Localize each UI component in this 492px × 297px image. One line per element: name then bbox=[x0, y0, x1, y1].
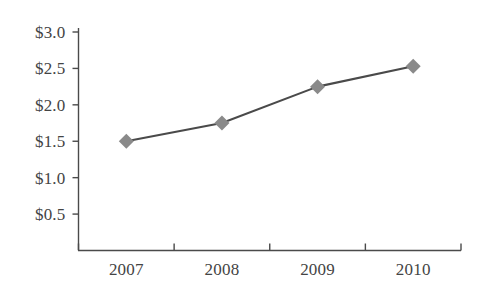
x-axis-tick-label: 2007 bbox=[109, 260, 144, 279]
x-axis-tick-label: 2009 bbox=[300, 260, 335, 279]
y-axis-tick-label: $1.0 bbox=[35, 169, 66, 188]
y-axis-tick-mark-group bbox=[73, 32, 79, 214]
series-line-path bbox=[126, 66, 413, 141]
x-axis-tick-label-group: 2007200820092010 bbox=[109, 260, 431, 279]
x-axis-tick-mark-group bbox=[79, 244, 462, 251]
y-axis-tick-label: $2.5 bbox=[35, 59, 66, 78]
y-axis-tick-label: $0.5 bbox=[35, 205, 66, 224]
x-axis-tick-label: 2008 bbox=[205, 260, 240, 279]
data-point-marker bbox=[214, 116, 229, 131]
chart-canvas: $0.5$1.0$1.5$2.0$2.5$3.0 200720082009201… bbox=[0, 0, 492, 297]
data-point-marker bbox=[406, 59, 421, 74]
data-point-marker bbox=[310, 79, 325, 94]
line-chart: $0.5$1.0$1.5$2.0$2.5$3.0 200720082009201… bbox=[0, 0, 492, 297]
y-axis-tick-label-group: $0.5$1.0$1.5$2.0$2.5$3.0 bbox=[35, 23, 66, 224]
data-point-marker bbox=[119, 134, 134, 149]
y-axis-tick-label: $2.0 bbox=[35, 96, 66, 115]
x-axis-tick-label: 2010 bbox=[396, 260, 431, 279]
y-axis-tick-label: $1.5 bbox=[35, 132, 66, 151]
y-axis-tick-label: $3.0 bbox=[35, 23, 66, 42]
